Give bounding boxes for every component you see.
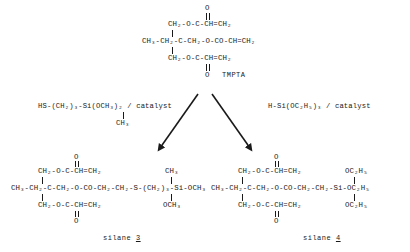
silane4-label: silane 4: [303, 234, 341, 242]
silane4-silicon-top-bond: [354, 177, 355, 184]
silane3-label-number: 3: [136, 234, 141, 242]
reactant-top-carbonyl-oxygen: O: [205, 4, 209, 12]
reactant-bottom-acrylate-branch: CH₂-O-C-CH=CH₂: [168, 54, 232, 63]
silane3-label-prefix: silane: [103, 234, 136, 242]
silane3-bottom-branch-bond: [42, 194, 43, 201]
silane3-bottom-carbonyl-oxygen: O: [74, 217, 78, 225]
arrow-to-silane-4: [212, 94, 250, 148]
silane3-silicon-top-bond: [171, 177, 172, 184]
silane3-bottom-acrylate-branch: CH₂-O-C-CH=CH₂: [38, 201, 102, 210]
silane4-top-branch-bond: [242, 177, 243, 184]
reactant-top-acrylate-branch: CH₂-O-C-CH=CH₂: [168, 20, 232, 29]
silane3-label: silane 3: [103, 234, 141, 242]
right-reagent-text: H-Si(OC₂H₅)₃ / catalyst: [268, 102, 371, 110]
reactant-bottom-branch-bond: [172, 47, 173, 54]
left-reagent-text: HS-(CH₂)₃-Si(OCH₃)₂ / catalyst: [38, 102, 172, 110]
silane4-top-carbonyl-oxygen: O: [274, 153, 278, 161]
silane4-silicon-top-group: OC₂H₅: [345, 167, 368, 176]
silane4-bottom-acrylate-branch: CH₂-O-C-CH=CH₂: [238, 201, 302, 210]
silane4-label-number: 4: [336, 234, 341, 242]
reactant-main-chain: CH₃-CH₂-C-CH₂-O-CO-CH=CH₂: [142, 37, 255, 46]
silane4-silicon-bottom-group: OC₂H₅: [345, 201, 368, 210]
silane4-main-chain: CH₃-CH₂-C-CH₂-O-CO-CH₂-CH₂-Si-OC₂H₅: [211, 184, 370, 193]
reactant-bottom-carbonyl-double-bond: [206, 64, 210, 71]
silane3-main-chain: CH₃-CH₂-C-CH₂-O-CO-CH₂-CH₂-S-(CH₂)₃-Si-O…: [11, 184, 206, 193]
silane3-top-branch-bond: [42, 177, 43, 184]
reactant-top-branch-bond: [172, 30, 173, 37]
reaction-scheme-figure: O CH₂-O-C-CH=CH₂ CH₃-CH₂-C-CH₂-O-CO-CH=C…: [0, 0, 410, 252]
left-reagent-methyl-group: CH₃: [116, 119, 129, 127]
silane4-label-prefix: silane: [303, 234, 336, 242]
left-reagent-methyl-bond: [123, 112, 124, 119]
silane3-top-acrylate-branch: CH₂-O-C-CH=CH₂: [38, 167, 102, 176]
silane3-silicon-bottom-bond: [171, 194, 172, 201]
silane4-bottom-branch-bond: [242, 194, 243, 201]
silane4-top-acrylate-branch: CH₂-O-C-CH=CH₂: [238, 167, 302, 176]
reactant-bottom-carbonyl-oxygen: O: [205, 71, 209, 79]
silane4-silicon-bottom-bond: [354, 194, 355, 201]
silane4-bottom-carbonyl-oxygen: O: [274, 217, 278, 225]
reactant-name-label: TMPTA: [222, 71, 246, 79]
silane3-top-carbonyl-oxygen: O: [74, 153, 78, 161]
silane3-silicon-top-group: CH₃: [165, 167, 179, 176]
silane3-silicon-bottom-group: OCH₃: [163, 201, 181, 210]
reactant-top-carbonyl-double-bond: [206, 13, 210, 20]
